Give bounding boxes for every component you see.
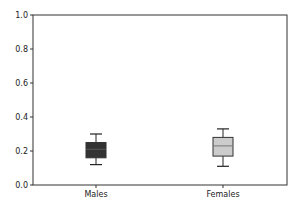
box-plot-chart: 0.00.20.40.60.81.0 MalesFemales [0,0,299,207]
box-females [213,129,233,166]
iqr-box [86,143,106,158]
boxes [86,129,233,166]
x-axis-ticks: MalesFemales [84,185,239,199]
y-tick-label: 0.8 [15,45,28,54]
x-tick-label: Males [84,190,107,199]
plot-frame [33,15,287,185]
y-tick-label: 0.0 [15,181,28,190]
y-tick-label: 1.0 [15,11,28,20]
y-tick-label: 0.6 [15,79,28,88]
y-axis-ticks: 0.00.20.40.60.81.0 [15,11,33,190]
y-tick-label: 0.4 [15,113,28,122]
box-males [86,134,106,165]
iqr-box [213,137,233,156]
y-tick-label: 0.2 [15,147,28,156]
x-tick-label: Females [206,190,239,199]
